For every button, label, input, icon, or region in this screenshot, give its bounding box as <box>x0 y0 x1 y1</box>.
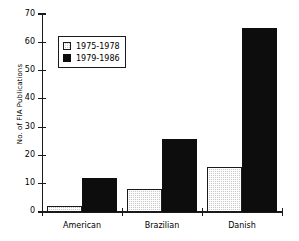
bar-brazilian-1975-1978 <box>127 189 162 212</box>
y-axis-tick-70 <box>38 13 46 14</box>
legend-label-1979-1986: 1979-1986 <box>76 54 120 63</box>
chart-legend: 1975-1978 1979-1986 <box>58 36 126 68</box>
legend-row-1975-1978: 1975-1978 <box>63 40 120 52</box>
y-axis-tick-40 <box>38 98 46 99</box>
x-axis-tick-2 <box>202 208 203 216</box>
x-axis-tick-1 <box>122 208 123 216</box>
y-axis-tick-50 <box>38 70 46 71</box>
y-axis-tick-label-10: 10 <box>11 179 35 187</box>
y-axis-tick-label-70: 70 <box>11 10 35 18</box>
y-axis-tick-60 <box>38 42 46 43</box>
y-axis-tick-10 <box>38 183 46 184</box>
bar-brazilian-1979-1986 <box>162 139 197 213</box>
y-axis-tick-30 <box>38 127 46 128</box>
y-axis-tick-label-40: 40 <box>11 94 35 102</box>
legend-swatch-stipple-gray-icon <box>63 42 71 50</box>
bar-american-1979-1986 <box>82 178 117 212</box>
x-axis-label-american: American <box>42 221 122 230</box>
legend-swatch-solid-black-icon <box>63 54 71 62</box>
y-axis-tick-label-30: 30 <box>11 123 35 131</box>
bar-danish-1975-1978 <box>207 167 242 212</box>
x-axis-label-brazilian: Brazilian <box>122 221 202 230</box>
y-axis-tick-label-60: 60 <box>11 38 35 46</box>
legend-label-1975-1978: 1975-1978 <box>76 42 120 51</box>
bar-chart: No. of FIA Publications 70 60 50 40 30 2… <box>0 0 299 241</box>
y-axis-tick-label-50: 50 <box>11 66 35 74</box>
legend-row-1979-1986: 1979-1986 <box>63 52 120 64</box>
bar-american-1975-1978 <box>47 206 82 212</box>
y-axis-tick-label-20: 20 <box>11 151 35 159</box>
y-axis-tick-20 <box>38 155 46 156</box>
bar-danish-1979-1986 <box>242 28 277 212</box>
x-axis-tick-end <box>282 208 283 216</box>
x-axis-label-danish: Danish <box>202 221 282 230</box>
y-axis-tick-label-0: 0 <box>11 207 35 215</box>
x-axis-tick-start <box>42 208 43 216</box>
